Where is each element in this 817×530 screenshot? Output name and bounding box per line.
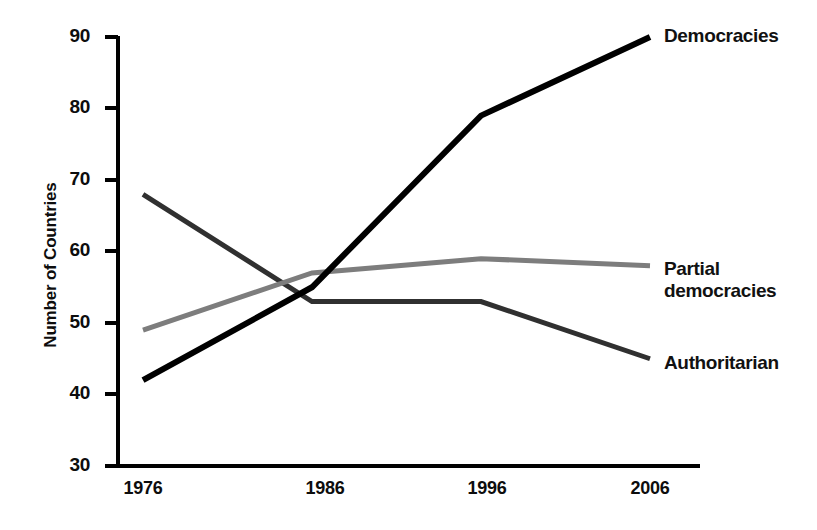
line-chart-figure: Number of Countries 90 80 70 60 50 40 30… <box>0 0 817 530</box>
series-label-authoritarian: Authoritarian <box>664 352 779 374</box>
series-line-partial-democracies <box>143 259 650 331</box>
y-tick-label-40: 40 <box>44 382 90 404</box>
x-tick-label-1976: 1976 <box>98 478 188 499</box>
series-line-democracies <box>143 37 650 380</box>
y-tick-label-60: 60 <box>44 239 90 261</box>
series-line-authoritarian <box>143 194 650 358</box>
series-label-democracies: Democracies <box>664 25 778 47</box>
x-tick-label-1986: 1986 <box>280 478 370 499</box>
y-tick-label-50: 50 <box>44 311 90 333</box>
y-tick-label-90: 90 <box>44 25 90 47</box>
y-tick-label-80: 80 <box>44 96 90 118</box>
x-tick-label-1996: 1996 <box>442 478 532 499</box>
y-tick-label-30: 30 <box>44 454 90 476</box>
x-tick-label-2006: 2006 <box>605 478 695 499</box>
y-tick-label-70: 70 <box>44 168 90 190</box>
series-label-partial-democracies: Partial democracies <box>664 258 776 303</box>
